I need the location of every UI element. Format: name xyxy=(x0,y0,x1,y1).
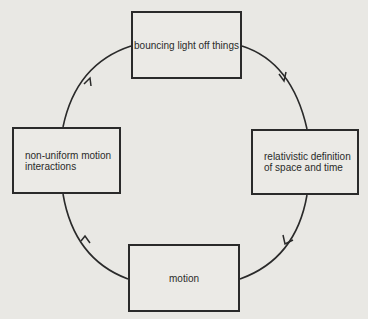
node-label-line: of space and time xyxy=(264,162,351,173)
node-label-line: relativistic definition xyxy=(264,151,351,162)
edge-right-to-bottom xyxy=(240,195,307,279)
node-label-line: interactions xyxy=(25,161,111,172)
arrow-icon xyxy=(84,78,91,86)
edge-bottom-to-left xyxy=(63,194,128,279)
edge-left-to-top xyxy=(63,46,131,127)
node-label: bouncing light off things xyxy=(134,40,239,51)
node-label: motion xyxy=(169,273,199,284)
edge-top-to-right xyxy=(242,46,307,129)
node-motion: motion xyxy=(128,244,240,312)
node-non-uniform-motion: non-uniform motion interactions xyxy=(12,127,121,194)
node-bouncing-light: bouncing light off things xyxy=(131,11,242,79)
node-label-line: non-uniform motion xyxy=(25,150,111,161)
arrow-icon xyxy=(81,236,90,243)
node-relativistic-definition: relativistic definition of space and tim… xyxy=(251,129,359,195)
